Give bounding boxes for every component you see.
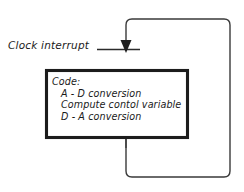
code-box-text-group: Code: A - D conversion Compute contol va… — [52, 76, 184, 122]
code-box-title: Code: — [52, 76, 184, 88]
diagram-canvas: Clock interrupt Code: A - D conversion C… — [0, 0, 244, 192]
clock-interrupt-label: Clock interrupt — [8, 40, 89, 51]
code-step-1: A - D conversion — [52, 88, 184, 100]
code-step-2: Compute contol variable — [52, 99, 184, 111]
down-arrow-icon — [121, 40, 132, 53]
code-step-3: D - A conversion — [52, 111, 184, 123]
